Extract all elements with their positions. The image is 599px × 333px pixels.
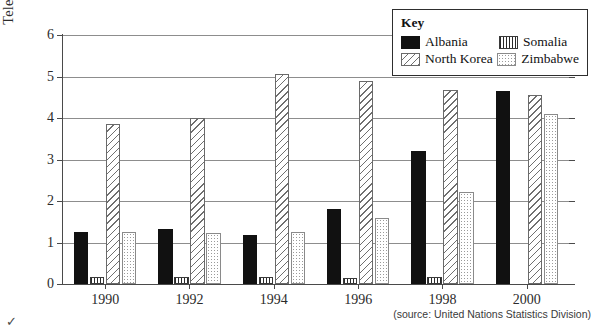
bar-albania-1992 xyxy=(158,229,173,284)
y-tick-label: 6 xyxy=(47,27,54,43)
bar-somalia-1992 xyxy=(174,277,189,284)
bar-zimbabwe-1990 xyxy=(122,232,137,284)
bar-zimbabwe-1992 xyxy=(206,233,221,284)
bar-zimbabwe-1996 xyxy=(375,218,390,284)
y-tick-label: 2 xyxy=(47,193,54,209)
x-tick-mark xyxy=(527,284,528,289)
y-tick-mark-right xyxy=(569,201,575,202)
x-tick-label-2000: 2000 xyxy=(513,292,541,308)
legend-label-albania: Albania xyxy=(425,34,468,51)
x-tick-label-1992: 1992 xyxy=(175,292,203,308)
bar-group: 1994 xyxy=(232,35,316,284)
bar-north-korea-1990 xyxy=(106,124,121,284)
bar-north-korea-1996 xyxy=(359,81,374,284)
y-tick-mark-right xyxy=(569,284,575,285)
bar-somalia-1996 xyxy=(343,278,358,284)
y-tick-mark-right xyxy=(569,160,575,161)
legend-label-north-korea: North Korea xyxy=(425,51,493,68)
source-note: (source: United Nations Statistics Divis… xyxy=(393,308,591,320)
y-tick-mark-right xyxy=(569,243,575,244)
bar-albania-1990 xyxy=(74,232,89,284)
legend-row-2: North Korea Zimbabwe xyxy=(401,51,579,68)
bar-group: 1990 xyxy=(63,35,147,284)
light-dots-swatch-icon xyxy=(497,53,516,66)
bar-zimbabwe-1998 xyxy=(459,192,474,284)
bar-chart-figure: Telephone lines / 100 people 0123456 199… xyxy=(0,0,599,333)
x-tick-mark xyxy=(442,284,443,289)
legend-entry-albania: Albania xyxy=(401,34,499,51)
x-tick-mark xyxy=(274,284,275,289)
bar-zimbabwe-1994 xyxy=(291,232,306,284)
bar-somalia-1994 xyxy=(259,277,274,284)
solid-black-swatch-icon xyxy=(401,36,420,49)
x-tick-mark xyxy=(189,284,190,289)
diagonal-hatch-swatch-icon xyxy=(401,53,420,66)
bar-albania-2000 xyxy=(496,91,511,284)
bar-albania-1996 xyxy=(327,209,342,284)
x-tick-label-1998: 1998 xyxy=(428,292,456,308)
x-tick-mark xyxy=(358,284,359,289)
bar-group: 1996 xyxy=(316,35,400,284)
y-tick-mark-right xyxy=(569,77,575,78)
legend-label-somalia: Somalia xyxy=(523,34,567,51)
vertical-stripes-swatch-icon xyxy=(499,36,518,49)
legend-entry-somalia: Somalia xyxy=(499,34,567,51)
x-tick-label-1990: 1990 xyxy=(91,292,119,308)
legend-label-zimbabwe: Zimbabwe xyxy=(521,51,579,68)
legend-entry-zimbabwe: Zimbabwe xyxy=(497,51,579,68)
bar-group: 1992 xyxy=(147,35,231,284)
y-tick-label: 1 xyxy=(47,235,54,251)
corner-check-mark-icon: ✓ xyxy=(6,316,20,328)
y-tick-label: 0 xyxy=(47,276,54,292)
y-tick-label: 5 xyxy=(47,69,54,85)
x-tick-label-1996: 1996 xyxy=(344,292,372,308)
bar-albania-1994 xyxy=(243,235,258,284)
bar-albania-1998 xyxy=(411,151,426,284)
legend-box: Key Albania Somalia North Korea Zimbabwe xyxy=(392,9,588,76)
legend-entry-north-korea: North Korea xyxy=(401,51,497,68)
bar-north-korea-2000 xyxy=(528,95,543,284)
bar-north-korea-1998 xyxy=(443,90,458,284)
bar-somalia-1998 xyxy=(427,277,442,284)
y-tick-label: 3 xyxy=(47,152,54,168)
bar-zimbabwe-2000 xyxy=(544,114,559,284)
legend-title: Key xyxy=(401,15,579,31)
y-tick-mark-right xyxy=(569,118,575,119)
x-axis-line xyxy=(62,284,570,285)
bar-somalia-1990 xyxy=(90,277,105,284)
legend-row-1: Albania Somalia xyxy=(401,34,579,51)
bar-north-korea-1994 xyxy=(275,74,290,284)
y-tick-mark xyxy=(57,284,63,285)
y-tick-label: 4 xyxy=(47,110,54,126)
x-tick-label-1994: 1994 xyxy=(260,292,288,308)
bar-north-korea-1992 xyxy=(190,118,205,284)
x-tick-mark xyxy=(105,284,106,289)
y-axis-title: Telephone lines / 100 people xyxy=(0,0,20,64)
